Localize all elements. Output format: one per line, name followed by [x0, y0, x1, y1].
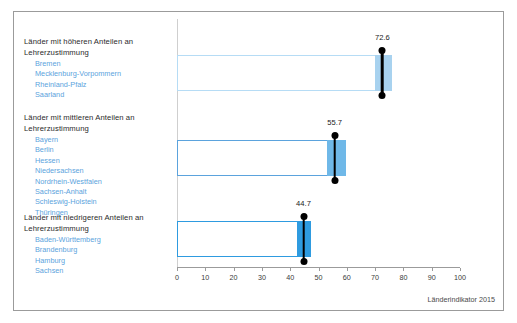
x-tick: [403, 268, 404, 271]
state-list: BremenMecklenburg-VorpommernRheinland-Pf…: [24, 59, 164, 101]
x-tick: [290, 268, 291, 271]
median-marker: [381, 49, 384, 97]
x-tick-label: 10: [201, 273, 209, 282]
x-tick: [375, 268, 376, 271]
median-marker: [333, 134, 336, 182]
list-item: Hamburg: [24, 256, 164, 266]
list-item: Brandenburg: [24, 245, 164, 255]
list-item: Rheinland-Pfalz: [24, 80, 164, 90]
list-item: Saarland: [24, 90, 164, 100]
x-tick-label: 40: [286, 273, 294, 282]
x-tick: [460, 268, 461, 271]
x-tick: [262, 268, 263, 271]
list-item: Bremen: [24, 59, 164, 69]
x-tick-label: 60: [343, 273, 351, 282]
list-item: Schleswig-Holstein: [24, 197, 164, 207]
median-endpoint-dot: [300, 258, 307, 265]
x-tick-label: 90: [428, 273, 436, 282]
range-box: [177, 55, 392, 91]
state-list: BayernBerlinHessenNiedersachsenNordrhein…: [24, 135, 164, 218]
state-list: Baden-WürttembergBrandenburgHamburgSachs…: [24, 235, 164, 277]
interquartile-fill: [327, 140, 346, 176]
x-tick: [319, 268, 320, 271]
x-tick-label: 80: [399, 273, 407, 282]
list-item: Nordrhein-Westfalen: [24, 177, 164, 187]
list-item: Bayern: [24, 135, 164, 145]
group-title: Länder mit höheren Anteilen an Lehrerzus…: [24, 36, 164, 58]
median-endpoint-dot: [379, 92, 386, 99]
list-item: Baden-Württemberg: [24, 235, 164, 245]
plot-area: 0102030405060708090100 72.655.744.7: [164, 12, 505, 312]
x-tick: [205, 268, 206, 271]
group-label: Länder mit höheren Anteilen an Lehrerzus…: [24, 36, 164, 101]
x-tick-label: 30: [258, 273, 266, 282]
x-tick-label: 20: [230, 273, 238, 282]
list-item: Hessen: [24, 156, 164, 166]
value-label: 44.7: [296, 199, 311, 208]
group-title: Länder mit mittleren Anteilen an Lehrerz…: [24, 112, 164, 134]
median-endpoint-dot: [300, 213, 307, 220]
list-item: Berlin: [24, 145, 164, 155]
list-item: Niedersachsen: [24, 166, 164, 176]
list-item: Sachsen-Anhalt: [24, 187, 164, 197]
value-label: 72.6: [375, 33, 390, 42]
median-endpoint-dot: [331, 132, 338, 139]
range-box: [177, 221, 311, 257]
group-label: Länder mit mittleren Anteilen an Lehrerz…: [24, 112, 164, 218]
x-tick: [234, 268, 235, 271]
x-tick-label: 50: [315, 273, 323, 282]
x-tick-label: 0: [175, 273, 179, 282]
value-label: 55.7: [327, 118, 342, 127]
group-label-column: Länder mit höheren Anteilen an Lehrerzus…: [14, 12, 164, 267]
x-tick: [432, 268, 433, 271]
median-endpoint-dot: [379, 47, 386, 54]
median-marker: [302, 215, 305, 263]
group-label: Länder mit niedrigeren Anteilen an Lehre…: [24, 212, 164, 277]
list-item: Mecklenburg-Vorpommern: [24, 69, 164, 79]
box-row: 72.6: [164, 55, 505, 91]
range-box: [177, 140, 346, 176]
x-tick: [177, 268, 178, 271]
x-tick-label: 70: [371, 273, 379, 282]
median-endpoint-dot: [331, 177, 338, 184]
chart-panel: Länder mit höheren Anteilen an Lehrerzus…: [13, 11, 504, 311]
box-row: 55.7: [164, 140, 505, 176]
source-note: Länderindikator 2015: [427, 295, 495, 304]
x-tick-label: 100: [454, 273, 466, 282]
box-row: 44.7: [164, 221, 505, 257]
list-item: Sachsen: [24, 266, 164, 276]
group-title: Länder mit niedrigeren Anteilen an Lehre…: [24, 212, 164, 234]
x-tick: [347, 268, 348, 271]
